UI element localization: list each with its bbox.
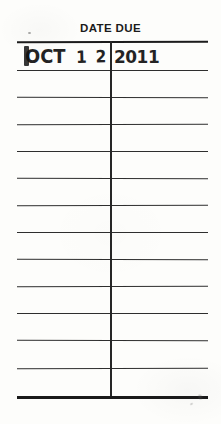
stamp-year: 2011 xyxy=(114,48,159,66)
stamp-day: 1 2 xyxy=(76,48,108,66)
rule-line xyxy=(17,41,208,43)
rule-line xyxy=(17,340,208,341)
stamp-month: OCT xyxy=(25,47,65,66)
column-divider xyxy=(110,41,112,396)
rule-line xyxy=(17,178,208,179)
rule-line xyxy=(17,232,208,233)
page-title: DATE DUE xyxy=(0,22,221,34)
rule-line xyxy=(17,368,208,369)
rule-line xyxy=(17,313,208,314)
rule-line xyxy=(17,70,208,71)
ink-smudge xyxy=(194,391,207,405)
rule-line xyxy=(17,286,208,287)
rule-line xyxy=(17,259,208,260)
rule-line xyxy=(17,124,208,125)
rule-line xyxy=(17,151,208,152)
rule-line xyxy=(17,396,208,399)
rule-line xyxy=(17,97,208,98)
date-due-slip: DATE DUE OCT 1 2 2011 xyxy=(0,0,221,424)
ink-smudge-secondary xyxy=(187,401,195,408)
rule-line xyxy=(17,205,208,206)
